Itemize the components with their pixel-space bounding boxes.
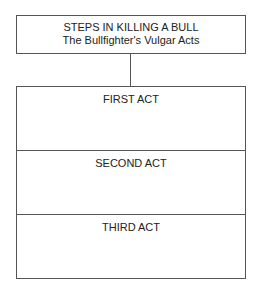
act-section-second: SECOND ACT [17,151,245,215]
diagram-title: STEPS IN KILLING A BULL [17,21,245,34]
act-label: SECOND ACT [17,157,245,170]
connector-line [130,54,131,87]
act-section-third: THIRD ACT [17,215,245,278]
diagram-subtitle: The Bullfighter's Vulgar Acts [17,34,245,47]
act-section-first: FIRST ACT [17,87,245,151]
act-label: FIRST ACT [17,93,245,106]
act-label: THIRD ACT [17,221,245,234]
title-box: STEPS IN KILLING A BULL The Bullfighter'… [16,15,246,54]
acts-box: FIRST ACT SECOND ACT THIRD ACT [16,86,246,279]
